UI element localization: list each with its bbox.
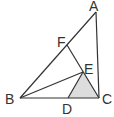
label-f: F [57,34,66,50]
label-c: C [102,91,112,107]
geometry-diagram: A B C D E F [0,0,114,117]
label-a: A [89,0,99,14]
label-d: D [62,101,72,117]
label-e: E [84,61,93,77]
label-b: B [5,91,14,107]
segment-ac [96,12,99,98]
